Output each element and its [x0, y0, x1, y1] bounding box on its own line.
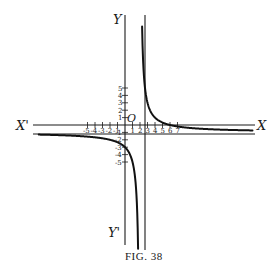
x-tick-label: 7 — [176, 127, 180, 135]
curves — [39, 27, 253, 249]
x-tick-label: -2 — [106, 127, 113, 135]
origin-label: O — [127, 112, 136, 125]
figure-caption: FIG. 38 — [125, 250, 163, 262]
x-tick-label: 1 — [131, 127, 135, 135]
asymptotes — [33, 15, 255, 250]
y-axis-label: Y — [113, 12, 123, 27]
x-tick-label: 2 — [138, 127, 142, 135]
x-axis-label: X — [256, 118, 267, 133]
right-branch-curve — [142, 27, 252, 131]
x-tick-label: -3 — [98, 127, 105, 135]
hyperbola-figure: -5-4-3-2-1123456754321-1-2-3-4-5 X' X Y … — [0, 0, 279, 268]
x-tick-label: 4 — [153, 127, 158, 135]
y-tick-label: 1 — [118, 114, 122, 122]
x-tick-label: -5 — [83, 127, 90, 135]
x-axis-negative-label: X' — [15, 118, 29, 133]
left-branch-curve — [39, 135, 138, 249]
x-tick-label: -4 — [91, 127, 98, 135]
y-tick-label: -5 — [115, 159, 122, 167]
x-tick-label: 3 — [146, 127, 150, 135]
x-tick-label: 5 — [161, 127, 165, 135]
x-tick-label: 6 — [168, 127, 173, 135]
y-axis-negative-label: Y' — [108, 225, 120, 240]
